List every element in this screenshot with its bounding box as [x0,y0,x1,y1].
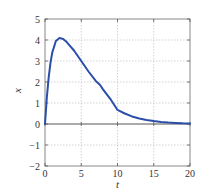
y-tick-labels: −2−1012345 [29,14,40,172]
y-axis-label: x [11,88,23,94]
x-axis-label: t [116,178,120,190]
x-tick-label: 20 [185,168,195,179]
x-tick-label: 15 [149,168,159,179]
y-tick-label: 4 [35,35,40,46]
series-line-x-of-t [45,38,190,124]
y-tick-label: 1 [35,98,40,109]
y-tick-label: 0 [35,119,40,130]
line-chart: −2−1012345 05101520 t x [0,0,203,194]
y-tick-label: −1 [29,140,40,151]
y-tick-label: −2 [29,161,40,172]
y-tick-label: 3 [35,56,40,67]
y-tick-label: 2 [35,77,40,88]
x-tick-label: 5 [79,168,84,179]
x-tick-label: 0 [43,168,48,179]
y-tick-label: 5 [35,14,40,25]
